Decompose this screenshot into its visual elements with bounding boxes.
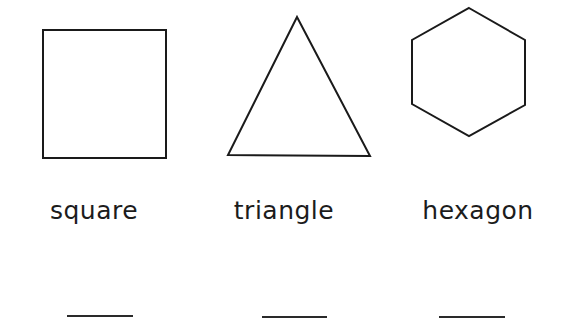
hexagon-answer-line[interactable] (439, 316, 505, 318)
square-answer-line[interactable] (67, 315, 133, 317)
hexagon-shape (412, 8, 525, 136)
triangle-label: triangle (222, 194, 346, 228)
hexagon-label: hexagon (410, 194, 546, 228)
square-label: square (34, 194, 154, 228)
triangle-answer-line[interactable] (262, 316, 327, 318)
triangle-shape (228, 17, 370, 156)
shapes-figure (0, 0, 585, 336)
square-shape (43, 30, 166, 158)
